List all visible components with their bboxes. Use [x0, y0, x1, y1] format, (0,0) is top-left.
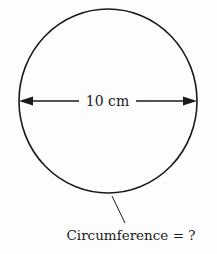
- circle-diagram: 10 cm Circumference = ?: [0, 0, 217, 254]
- arrowhead-right-icon: [183, 97, 197, 106]
- diagram-svg: 10 cm Circumference = ?: [0, 0, 217, 254]
- diameter-label: 10 cm: [86, 93, 129, 109]
- circumference-label: Circumference = ?: [67, 227, 196, 243]
- arrowhead-left-icon: [19, 97, 33, 106]
- leader-line: [112, 196, 125, 223]
